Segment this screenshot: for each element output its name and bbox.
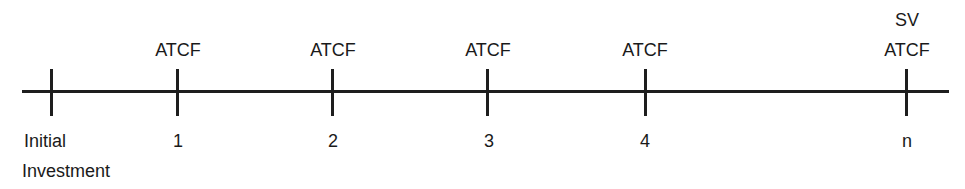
tick-period-0 bbox=[50, 69, 53, 116]
label-atcf-n: ATCF bbox=[884, 40, 930, 60]
label-investment: Investment bbox=[22, 161, 110, 181]
tick-period-2 bbox=[331, 69, 334, 116]
label-period-4: 4 bbox=[640, 131, 650, 151]
label-atcf-3: ATCF bbox=[465, 40, 511, 60]
label-initial: Initial bbox=[24, 131, 66, 151]
label-sv: SV bbox=[895, 10, 919, 30]
label-atcf-1: ATCF bbox=[155, 40, 201, 60]
tick-period-3 bbox=[486, 69, 489, 116]
label-atcf-4: ATCF bbox=[622, 40, 668, 60]
label-atcf-2: ATCF bbox=[310, 40, 356, 60]
label-period-2: 2 bbox=[328, 131, 338, 151]
label-period-1: 1 bbox=[173, 131, 183, 151]
tick-period-1 bbox=[176, 69, 179, 116]
tick-period-n bbox=[905, 69, 908, 116]
label-period-3: 3 bbox=[484, 131, 494, 151]
tick-period-4 bbox=[644, 69, 647, 116]
label-period-n: n bbox=[902, 131, 912, 151]
